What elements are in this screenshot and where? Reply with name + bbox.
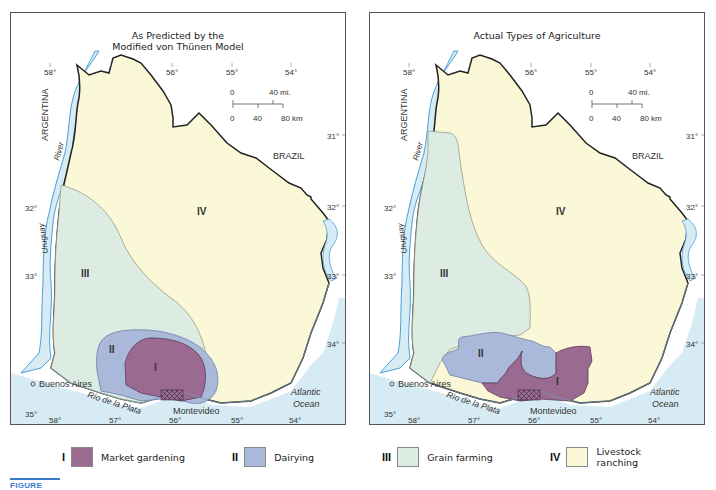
scale-mi-zero: 0 [589, 88, 594, 97]
lat-label: 34° [686, 340, 698, 349]
legend-swatch-grain-farming [397, 447, 419, 467]
lon-label: 55° [226, 68, 238, 77]
scale-mi-zero: 0 [230, 88, 235, 97]
lon-label: 54° [289, 416, 301, 425]
map-title-line1: As Predicted by the [11, 30, 345, 41]
legend-swatch-market-gardening [71, 447, 93, 467]
buenos-aires-label: Buenos Aires [398, 379, 452, 389]
legend-numeral: I [62, 451, 65, 463]
lon-label: 56° [525, 68, 537, 77]
montevideo-label: Montevideo [530, 406, 577, 416]
legend-item-grain-farming: III Grain farming [382, 440, 493, 474]
argentina-label: ARGENTINA [40, 88, 50, 141]
lat-label: 33° [327, 272, 339, 281]
lat-label: 33° [384, 272, 396, 281]
legend-label: Grain farming [427, 452, 493, 463]
montevideo-label: Montevideo [173, 406, 220, 416]
lat-label: 33° [25, 272, 37, 281]
lon-label: 55° [231, 416, 243, 425]
atlantic-label: Atlantic [290, 387, 321, 397]
lon-label: 56° [528, 416, 540, 425]
zone-ii-label: II [478, 348, 484, 359]
legend-item-livestock-ranching: IV Livestock ranching [550, 440, 646, 474]
lat-label: 31° [327, 132, 339, 141]
legend-label: Dairying [274, 452, 314, 463]
legend-label: Livestock ranching [596, 446, 646, 468]
scale-km-label: 80 km [281, 114, 303, 123]
lat-label: 32° [327, 203, 339, 212]
map-title: Actual Types of Agriculture [370, 30, 704, 41]
lon-label: 57° [109, 416, 121, 425]
lon-label: 54° [648, 416, 660, 425]
legend-numeral: IV [550, 451, 560, 463]
lon-label: 58° [403, 68, 415, 77]
legend: I Market gardening II Dairying III Grain… [0, 440, 716, 476]
zone-ii-label: II [109, 344, 115, 355]
scale-bar [592, 100, 642, 108]
zone-iii-label: III [440, 268, 449, 279]
lon-label: 54° [644, 68, 656, 77]
scale-km-mid: 40 [253, 114, 262, 123]
zone-i-label: I [556, 376, 559, 387]
lat-label: 31° [686, 132, 698, 141]
lon-label: 55° [585, 68, 597, 77]
legend-label: Market gardening [101, 452, 185, 463]
lat-label: 35° [25, 410, 37, 419]
legend-numeral: III [382, 451, 391, 463]
legend-swatch-livestock-ranching [566, 447, 588, 467]
scale-bar [233, 100, 283, 108]
scale-mi-label: 40 mi. [628, 88, 650, 97]
ocean-label: Ocean [652, 399, 679, 409]
lat-label: 32° [686, 203, 698, 212]
legend-item-market-gardening: I Market gardening [62, 440, 185, 474]
legend-swatch-dairying [244, 447, 266, 467]
brazil-label: BRAZIL [273, 151, 305, 161]
lon-label: 55° [590, 416, 602, 425]
map-title-line1: Actual Types of Agriculture [370, 30, 704, 41]
lat-label: 34° [327, 340, 339, 349]
scale-km-zero: 0 [230, 114, 235, 123]
atlantic-label: Atlantic [649, 387, 680, 397]
lon-label: 56° [169, 416, 181, 425]
lat-label: 32° [25, 204, 37, 213]
zone-i-label: I [154, 362, 157, 373]
montevideo-urban-area-icon [518, 390, 540, 400]
legend-numeral: II [232, 451, 238, 463]
ocean-label: Ocean [293, 399, 320, 409]
map-title-line2: Modified von Thünen Model [11, 41, 345, 52]
lat-label: 33° [686, 272, 698, 281]
argentina-label: ARGENTINA [399, 88, 409, 141]
map-title: As Predicted by the Modified von Thünen … [11, 30, 345, 52]
lon-label: 56° [166, 68, 178, 77]
lat-label: 35° [384, 410, 396, 419]
caption-rule [10, 478, 60, 480]
map-actual-agriculture: 0 40 mi. 0 40 80 km 58° 56° 55° 54° 58° … [369, 12, 705, 425]
lon-label: 57° [468, 416, 480, 425]
brazil-label: BRAZIL [632, 151, 664, 161]
zone-iv-label: IV [197, 206, 207, 217]
map-predicted-von-thunen: 0 40 mi. 0 40 80 km 58° 56° 55° 54° 58° … [10, 12, 346, 425]
legend-item-dairying: II Dairying [232, 440, 314, 474]
scale-km-label: 80 km [640, 114, 662, 123]
lon-label: 54° [285, 68, 297, 77]
map-canvas: 0 40 mi. 0 40 80 km 58° 56° 55° 54° 58° … [370, 13, 705, 425]
lon-label: 58° [408, 416, 420, 425]
buenos-aires-label: Buenos Aires [39, 379, 93, 389]
lat-label: 32° [384, 204, 396, 213]
scale-mi-label: 40 mi. [269, 88, 291, 97]
scale-km-zero: 0 [589, 114, 594, 123]
figure-caption: FIGURE [10, 481, 42, 490]
zone-iii-label: III [81, 268, 90, 279]
lon-label: 58° [44, 68, 56, 77]
lon-label: 58° [49, 416, 61, 425]
scale-km-mid: 40 [612, 114, 621, 123]
map-canvas: 0 40 mi. 0 40 80 km 58° 56° 55° 54° 58° … [11, 13, 346, 425]
montevideo-urban-area-icon [161, 390, 183, 400]
zone-iv-label: IV [556, 206, 566, 217]
